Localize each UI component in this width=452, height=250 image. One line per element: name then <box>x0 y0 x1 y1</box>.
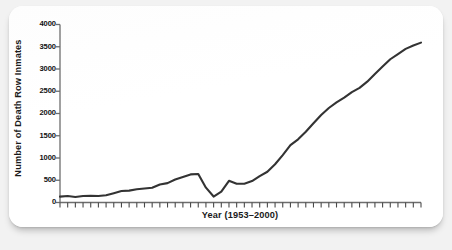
y-tick-label: 1000 <box>22 154 56 162</box>
plot-area: 05001000150020002500300035004000 Number … <box>0 0 452 250</box>
figure-root: 05001000150020002500300035004000 Number … <box>0 0 452 250</box>
y-tick-label: 2500 <box>22 87 56 95</box>
y-tick-label: 3000 <box>22 65 56 73</box>
x-axis-title: Year (1953–2000) <box>60 210 420 220</box>
y-tick-label: 1500 <box>22 132 56 140</box>
x-axis-ticks <box>60 203 421 208</box>
y-tick-label: 0 <box>22 198 56 206</box>
y-axis-title: Number of Death Row Inmates <box>9 3 27 213</box>
y-tick-label: 3500 <box>22 43 56 51</box>
y-tick-label: 500 <box>22 176 56 184</box>
y-tick-label: 4000 <box>22 20 56 28</box>
data-series-line <box>60 43 421 197</box>
y-tick-label: 2000 <box>22 109 56 117</box>
